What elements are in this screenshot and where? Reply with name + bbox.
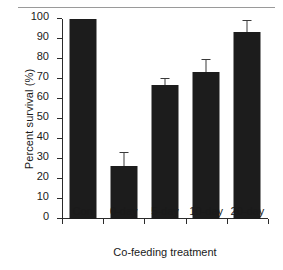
plot-area: 0102030405060708090100 <box>62 19 268 219</box>
y-axis-title: Percent survival (%) <box>23 39 35 199</box>
error-bar <box>164 79 165 85</box>
x-axis-tick-label: 20-day <box>217 205 277 217</box>
x-axis-title: Co-feeding treatment <box>62 246 268 258</box>
y-axis-tick-label: 90 <box>37 30 49 42</box>
top-divider-rule <box>18 7 275 8</box>
x-axis-tick <box>62 219 63 224</box>
bar <box>193 72 220 219</box>
y-axis-tick-label: 20 <box>37 170 49 182</box>
x-axis-tick <box>268 219 269 224</box>
y-axis-tick-label: 30 <box>37 150 49 162</box>
x-axis-tick <box>227 219 228 224</box>
bar-group <box>62 19 103 219</box>
y-axis-tick-label: 50 <box>37 110 49 122</box>
y-axis-tick-label: 70 <box>37 70 49 82</box>
y-axis-tick-label: 100 <box>31 10 49 22</box>
y-axis-tick-label: 80 <box>37 50 49 62</box>
error-bar-cap <box>243 20 252 21</box>
bar <box>69 19 96 219</box>
error-bar-cap <box>160 78 169 79</box>
error-bar-cap <box>202 59 211 60</box>
error-bar <box>123 153 124 166</box>
figure-container: Percent survival (%) 0102030405060708090… <box>0 0 283 270</box>
y-axis-tick-label: 10 <box>37 190 49 202</box>
error-bar <box>206 60 207 72</box>
bar-group <box>186 19 227 219</box>
bar-group <box>144 19 185 219</box>
error-bar <box>247 21 248 32</box>
bar <box>234 32 261 219</box>
error-bar-cap <box>119 152 128 153</box>
x-axis-tick <box>103 219 104 224</box>
x-axis-tick <box>144 219 145 224</box>
y-axis-tick-label: 40 <box>37 130 49 142</box>
x-axis-tick <box>186 219 187 224</box>
y-axis-tick-label: 60 <box>37 90 49 102</box>
bar-group <box>103 19 144 219</box>
bar <box>151 85 178 219</box>
bar-group <box>227 19 268 219</box>
y-axis-tick-label: 0 <box>43 210 49 222</box>
